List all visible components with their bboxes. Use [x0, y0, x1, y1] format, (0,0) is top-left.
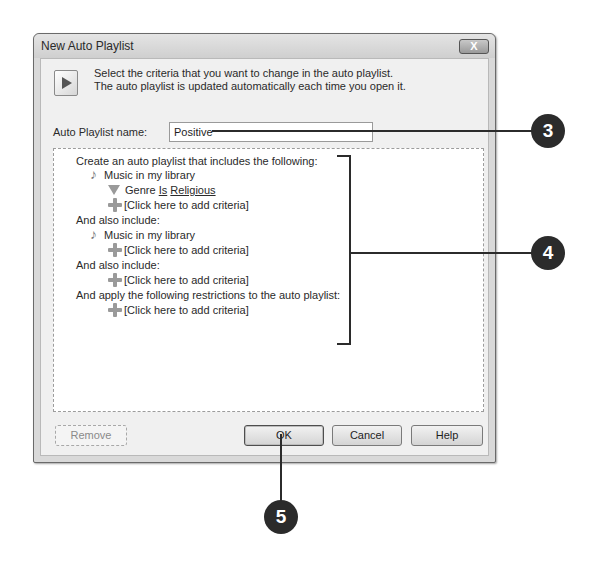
- music-note-icon: [90, 170, 102, 183]
- add-criteria-link-3[interactable]: [Click here to add criteria]: [108, 274, 249, 287]
- callout-3-line: [212, 130, 532, 132]
- section-also-include-heading-1: And also include:: [76, 214, 160, 227]
- section-restrictions-heading: And apply the following restrictions to …: [76, 289, 340, 302]
- close-icon: X: [470, 40, 477, 52]
- criteria-filter-genre: Genre Is Religious: [108, 184, 216, 197]
- section-include-heading: Create an auto playlist that includes th…: [76, 155, 318, 168]
- dialog-title: New Auto Playlist: [41, 39, 134, 53]
- callout-3-badge: 3: [531, 114, 565, 148]
- filter-value-link[interactable]: Religious: [170, 184, 215, 196]
- callout-4-bracket-vertical: [349, 155, 351, 345]
- playlist-name-label: Auto Playlist name:: [53, 126, 147, 138]
- header-instruction-2: The auto playlist is updated automatical…: [94, 80, 406, 92]
- music-note-icon: [90, 230, 102, 243]
- help-button[interactable]: Help: [411, 425, 483, 446]
- plus-icon: [108, 303, 122, 317]
- dialog-body: Select the criteria that you want to cha…: [40, 58, 489, 456]
- callout-4-bracket-bottom: [337, 343, 351, 345]
- ok-button[interactable]: OK: [244, 425, 324, 446]
- new-auto-playlist-dialog: New Auto Playlist X Select the criteria …: [33, 33, 496, 463]
- filter-operator-link[interactable]: Is: [159, 184, 168, 196]
- add-criteria-link-1[interactable]: [Click here to add criteria]: [108, 199, 249, 212]
- playlist-name-input[interactable]: [169, 122, 373, 142]
- plus-icon: [108, 198, 122, 212]
- remove-button[interactable]: Remove: [55, 425, 127, 446]
- add-criteria-link-2[interactable]: [Click here to add criteria]: [108, 244, 249, 257]
- section-also-include-heading-2: And also include:: [76, 259, 160, 272]
- callout-4-badge: 4: [531, 236, 565, 270]
- cancel-button[interactable]: Cancel: [332, 425, 402, 446]
- criteria-source-music-library[interactable]: Music in my library: [90, 169, 195, 182]
- callout-5-badge: 5: [264, 500, 298, 534]
- funnel-icon: [108, 185, 120, 195]
- auto-playlist-icon: [54, 70, 78, 96]
- plus-icon: [108, 243, 122, 257]
- criteria-source-music-library-2[interactable]: Music in my library: [90, 229, 195, 242]
- add-criteria-link-4[interactable]: [Click here to add criteria]: [108, 304, 249, 317]
- criteria-panel: Create an auto playlist that includes th…: [53, 148, 484, 412]
- filter-field: Genre: [125, 184, 156, 196]
- header-instruction-1: Select the criteria that you want to cha…: [94, 67, 393, 79]
- callout-4-line: [350, 252, 532, 254]
- callout-5-line: [280, 434, 282, 502]
- close-button[interactable]: X: [459, 39, 489, 54]
- plus-icon: [108, 273, 122, 287]
- title-bar: New Auto Playlist X: [34, 34, 495, 58]
